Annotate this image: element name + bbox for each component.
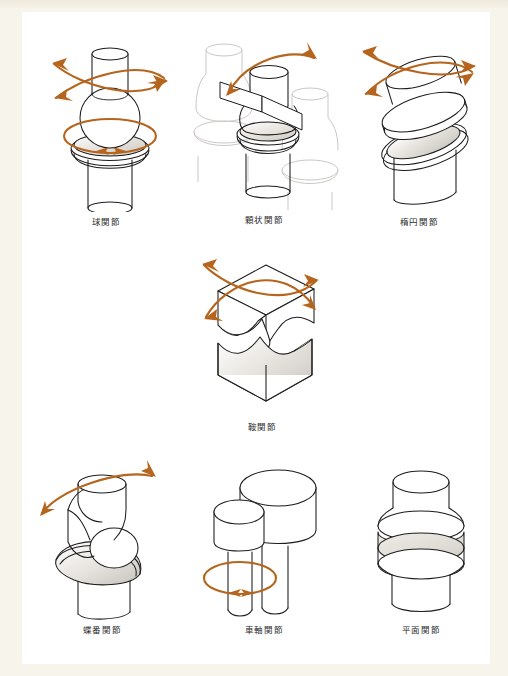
figure-saddle-joint: 鞍関節 (182, 247, 342, 432)
figure-plane-joint: 平面関節 (346, 452, 496, 635)
figure-ellipsoid-joint: 楕円関節 (344, 32, 494, 227)
condyloid-joint-diagram (184, 32, 344, 212)
figure-ball-and-socket-joint: 球関節 (30, 32, 182, 227)
plane-joint-diagram (346, 452, 496, 622)
ball-and-socket-joint-diagram (30, 32, 182, 212)
page-top-edge-strip (0, 0, 508, 8)
figure-caption: 顆状関節 (245, 216, 283, 225)
figure-caption: 楕円関節 (400, 218, 438, 227)
figure-caption: 平面関節 (402, 626, 440, 635)
hinge-joint-diagram (22, 452, 182, 622)
ghost-position-left (194, 44, 254, 182)
figure-caption: 車軸関節 (245, 626, 283, 635)
joint-types-figure-page: 球関節 (0, 0, 508, 676)
figure-pivot-joint: 車軸関節 (184, 452, 344, 635)
figure-plate: 球関節 (22, 12, 490, 664)
pivot-joint-diagram (184, 452, 344, 622)
figure-grid: 球関節 (22, 12, 490, 664)
ellipsoid-joint-diagram (344, 32, 494, 212)
figure-caption: 蝶番関節 (83, 626, 121, 635)
figure-caption: 鞍関節 (248, 423, 277, 432)
figure-condyloid-joint: 顆状関節 (184, 32, 344, 225)
figure-caption: 球関節 (92, 218, 121, 227)
figure-hinge-joint: 蝶番関節 (22, 452, 182, 635)
saddle-joint-diagram (182, 247, 342, 417)
